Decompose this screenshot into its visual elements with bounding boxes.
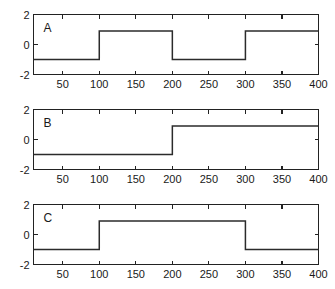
- y-tick-label: -2: [20, 164, 30, 176]
- plot-frame: [34, 15, 319, 75]
- x-tick-label: 250: [200, 173, 218, 185]
- x-tick-label: 300: [236, 78, 254, 90]
- y-tick-label: 2: [23, 104, 29, 116]
- x-tick-label: 100: [90, 268, 108, 280]
- x-tick-label: 350: [273, 173, 291, 185]
- chart-panel-b: 50100150200250300350400-202B: [0, 95, 335, 190]
- x-tick-label: 300: [236, 173, 254, 185]
- x-tick-label: 400: [309, 173, 327, 185]
- y-tick-label: 0: [23, 39, 29, 51]
- x-tick-label: 400: [309, 268, 327, 280]
- chart-panel-c: 50100150200250300350400-202C: [0, 190, 335, 285]
- y-tick-label: -2: [20, 69, 30, 81]
- x-tick-label: 50: [57, 173, 69, 185]
- plot-frame: [34, 110, 319, 170]
- x-tick-label: 50: [57, 268, 69, 280]
- x-tick-label: 200: [163, 268, 181, 280]
- plot-frame: [34, 205, 319, 265]
- x-tick-label: 50: [57, 78, 69, 90]
- panel-label: C: [44, 211, 53, 225]
- y-tick-label: 2: [23, 199, 29, 211]
- y-tick-label: 0: [23, 134, 29, 146]
- x-tick-label: 350: [273, 268, 291, 280]
- chart-panel-a: 50100150200250300350400-202A: [0, 0, 335, 95]
- x-tick-label: 250: [200, 268, 218, 280]
- x-tick-label: 250: [200, 78, 218, 90]
- x-tick-label: 300: [236, 268, 254, 280]
- x-tick-label: 350: [273, 78, 291, 90]
- panel-label: A: [44, 21, 52, 35]
- panel-label: B: [44, 116, 52, 130]
- x-tick-label: 100: [90, 173, 108, 185]
- x-tick-label: 150: [127, 173, 145, 185]
- figure-canvas: 50100150200250300350400-202A501001502002…: [0, 0, 335, 289]
- y-tick-label: 0: [23, 229, 29, 241]
- data-series-line: [34, 31, 319, 60]
- y-tick-label: 2: [23, 9, 29, 21]
- data-series-line: [34, 126, 319, 155]
- x-tick-label: 100: [90, 78, 108, 90]
- y-tick-label: -2: [20, 259, 30, 271]
- x-tick-label: 150: [127, 78, 145, 90]
- x-tick-label: 400: [309, 78, 327, 90]
- data-series-line: [34, 221, 319, 250]
- x-tick-label: 200: [163, 173, 181, 185]
- x-tick-label: 200: [163, 78, 181, 90]
- x-tick-label: 150: [127, 268, 145, 280]
